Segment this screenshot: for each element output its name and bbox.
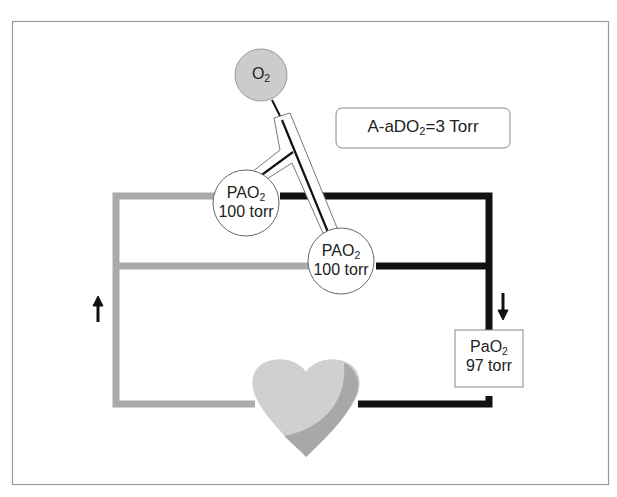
up-arrow-icon <box>93 296 103 322</box>
alveolus-2-label: PAO2 100 torr <box>306 242 376 279</box>
gradient-suffix: =3 Torr <box>426 117 479 136</box>
o2-text: O <box>252 65 264 82</box>
arterial-label: PaO2 97 torr <box>455 338 523 375</box>
gradient-label: A-aDO2=3 Torr <box>336 118 510 137</box>
arterial-value: 97 torr <box>455 357 523 375</box>
arterial-pao2: PaO <box>470 338 502 355</box>
alveolus-1-label: PAO2 100 torr <box>211 184 281 221</box>
alveolus-2-value: 100 torr <box>306 261 376 279</box>
o2-subscript: 2 <box>264 73 270 84</box>
alveolus-2-subscript: 2 <box>354 250 360 261</box>
alveolus-1-pao2: PAO <box>227 184 260 201</box>
alveolus-2-pao2: PAO <box>322 242 355 259</box>
gradient-prefix: A-aDO <box>367 117 419 136</box>
heart-icon <box>252 359 359 457</box>
alveolus-1-value: 100 torr <box>211 203 281 221</box>
o2-label: O2 <box>241 65 281 84</box>
alveolus-1-subscript: 2 <box>259 192 265 203</box>
arterial-subscript: 2 <box>502 346 508 357</box>
down-arrow-icon <box>498 293 508 320</box>
